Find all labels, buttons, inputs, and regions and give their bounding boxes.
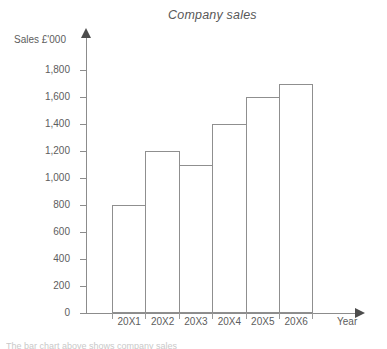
y-axis-tick: [80, 286, 87, 287]
x-axis-tick-label: 20X5: [246, 316, 280, 327]
y-axis-tick: [80, 313, 87, 314]
bar: [179, 165, 213, 314]
y-axis-title: Sales £'000: [14, 34, 66, 45]
bar: [279, 84, 313, 314]
y-axis-line: [86, 36, 87, 314]
x-axis-tick-label: 20X3: [179, 316, 213, 327]
y-axis-tick: [80, 178, 87, 179]
y-axis-tick: [80, 151, 87, 152]
y-axis-tick-label: 800: [26, 200, 70, 210]
x-axis-tick-label: 20X6: [279, 316, 313, 327]
chart-title: Company sales: [168, 8, 257, 22]
bar: [145, 151, 179, 313]
x-axis-tick-label: 20X2: [145, 316, 179, 327]
bar: [212, 124, 246, 313]
y-axis-tick: [80, 70, 87, 71]
bar: [246, 97, 280, 313]
x-axis-arrow-icon: [355, 308, 365, 318]
y-axis-tick-label: 1,200: [26, 146, 70, 156]
y-axis-tick-label: 1,600: [26, 92, 70, 102]
y-axis-tick-label: 1,400: [26, 119, 70, 129]
y-axis-arrow-icon: [81, 28, 91, 38]
y-axis-tick-label: 1,800: [26, 65, 70, 75]
y-axis-tick-label: 0: [26, 308, 70, 318]
x-axis-tick-label: 20X4: [212, 316, 246, 327]
x-axis-line: [86, 313, 358, 314]
clipped-footer-text: The bar chart above shows company sales: [6, 341, 177, 349]
y-axis-tick: [80, 259, 87, 260]
y-axis-tick: [80, 124, 87, 125]
y-axis-tick: [80, 232, 87, 233]
x-axis-tick-label: 20X1: [112, 316, 146, 327]
bar-chart: Company sales Sales £'000 Year 020040060…: [0, 0, 387, 349]
y-axis-tick-label: 400: [26, 254, 70, 264]
y-axis-tick: [80, 97, 87, 98]
bar: [112, 205, 146, 313]
y-axis-tick-label: 1,000: [26, 173, 70, 183]
y-axis-tick-label: 200: [26, 281, 70, 291]
y-axis-tick: [80, 205, 87, 206]
y-axis-tick-label: 600: [26, 227, 70, 237]
